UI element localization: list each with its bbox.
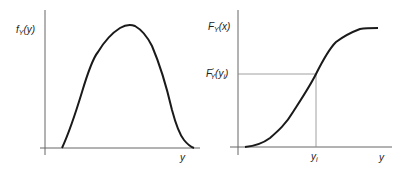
cdf-x-label: y <box>378 152 385 163</box>
cdf-mark-x-label: yi <box>310 151 318 163</box>
distribution-diagram: fY(y) y FY(x) F′Y(yi) yi y <box>0 0 407 172</box>
cdf-curve <box>245 28 378 147</box>
pdf-curve <box>62 25 194 148</box>
pdf-x-label: y <box>179 152 186 163</box>
pdf-plot: fY(y) y <box>16 10 200 163</box>
cdf-plot: FY(x) F′Y(yi) yi y <box>206 10 392 163</box>
pdf-y-label: fY(y) <box>16 24 35 36</box>
cdf-y-label: FY(x) <box>208 21 230 33</box>
cdf-mark-y-label: F′Y(yi) <box>206 67 228 80</box>
